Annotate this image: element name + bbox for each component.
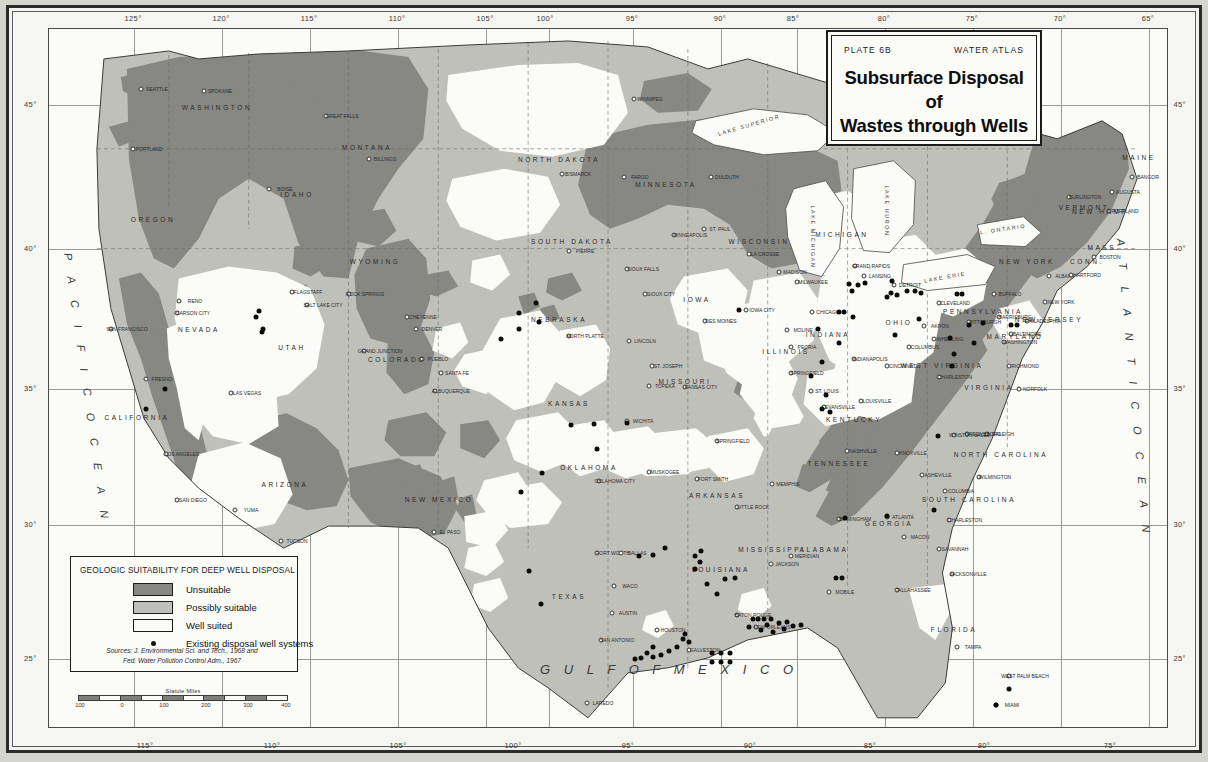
disposal-well-marker [519, 490, 524, 495]
state-label: MONTANA [342, 144, 392, 151]
disposal-well-marker [651, 645, 656, 650]
state-label: ILLINOIS [762, 348, 810, 355]
disposal-well-marker [820, 360, 825, 365]
state-label: OHIO [885, 319, 912, 326]
disposal-well-marker [637, 554, 642, 559]
state-label: GEORGIA [865, 520, 914, 527]
disposal-well-marker [569, 423, 574, 428]
disposal-well-marker [895, 293, 900, 298]
legend-label-possibly-suitable: Possibly suitable [186, 602, 257, 613]
disposal-well-marker [710, 660, 715, 665]
disposal-well-marker [950, 364, 955, 369]
disposal-well-marker [759, 628, 764, 633]
state-label: CONN. [1070, 258, 1104, 265]
state-label: WEST VIRGINIA [901, 362, 984, 369]
state-label: PENNSYLVANIA [943, 308, 1023, 315]
disposal-well-marker [843, 516, 848, 521]
state-label: MAINE [1122, 154, 1156, 161]
disposal-well-marker [828, 410, 833, 415]
legend-swatch-unsuitable [133, 583, 173, 596]
legend-row-well-suited[interactable]: Well suited [71, 616, 297, 634]
disposal-well-marker [762, 617, 767, 622]
legend-row-unsuitable[interactable]: Unsuitable [71, 580, 297, 598]
map-title: Subsurface Disposal of Wastes through We… [838, 66, 1030, 138]
disposal-well-marker [952, 352, 957, 357]
disposal-well-marker [816, 327, 821, 332]
disposal-well-marker [972, 341, 977, 346]
disposal-well-marker [710, 651, 715, 656]
disposal-well-marker [913, 289, 918, 294]
disposal-well-marker [885, 514, 890, 519]
disposal-well-marker [771, 630, 776, 635]
legend-row-possibly-suitable[interactable]: Possibly suitable [71, 598, 297, 616]
state-label: WASHINGTON [182, 104, 252, 111]
state-label: NEW YORK [999, 258, 1055, 265]
state-label: COLORADO [368, 356, 426, 363]
legend-swatch-well-suited [133, 619, 173, 632]
state-label: NEVADA [178, 326, 220, 333]
disposal-well-marker [863, 281, 868, 286]
disposal-well-marker [257, 309, 262, 314]
state-label: FLORIDA [931, 626, 977, 633]
legend-source-line1: Sources: J. Environmental Sci. and Tech.… [71, 646, 293, 656]
state-label: WISCONSIN [729, 238, 790, 245]
disposal-well-marker [809, 374, 814, 379]
disposal-well-marker [756, 617, 761, 622]
disposal-well-marker [960, 292, 965, 297]
disposal-well-marker [517, 327, 522, 332]
state-label: SOUTH CAROLINA [922, 496, 1016, 503]
state-label: MISSOURI [659, 378, 712, 385]
disposal-well-marker [994, 703, 999, 708]
disposal-well-marker [693, 554, 698, 559]
state-label: TENNESSEE [808, 460, 871, 467]
state-label: NORTH CAROLINA [954, 451, 1048, 458]
disposal-well-marker [719, 660, 724, 665]
disposal-well-marker [639, 656, 644, 661]
lake-label-huron: LAKE HURON [884, 185, 890, 236]
legend-swatch-possibly-suitable [133, 601, 173, 614]
state-label: LOUISIANA [692, 566, 750, 573]
state-label: ALABAMA [800, 546, 849, 553]
disposal-well-marker [260, 330, 265, 335]
disposal-well-marker [540, 471, 545, 476]
state-label: MICHIGAN [815, 231, 868, 238]
plate-number: PLATE 6B [844, 45, 892, 55]
disposal-well-marker [699, 549, 704, 554]
state-label: NORTH DAKOTA [518, 156, 600, 163]
map-legend: GEOLOGIC SUITABILITY FOR DEEP WELL DISPO… [70, 556, 298, 672]
disposal-well-marker [651, 655, 656, 660]
disposal-well-marker [667, 649, 672, 654]
disposal-well-marker [728, 651, 733, 656]
disposal-well-marker [737, 308, 742, 313]
disposal-well-marker [981, 321, 986, 326]
legend-heading: GEOLOGIC SUITABILITY FOR DEEP WELL DISPO… [80, 565, 295, 575]
disposal-well-marker [919, 291, 924, 296]
state-label: IDAHO [280, 191, 314, 198]
disposal-well-marker [799, 623, 804, 628]
disposal-well-marker [785, 620, 790, 625]
disposal-well-marker [1007, 687, 1012, 692]
disposal-well-marker [659, 653, 664, 658]
disposal-well-marker [592, 422, 597, 427]
disposal-well-marker [534, 301, 539, 306]
state-label: WYOMING [350, 258, 401, 265]
disposal-well-marker [834, 576, 839, 581]
disposal-well-marker [517, 311, 522, 316]
state-label: NEW JERSEY [1015, 316, 1083, 323]
disposal-well-marker [163, 387, 168, 392]
disposal-well-marker [769, 617, 774, 622]
disposal-well-marker [905, 289, 910, 294]
state-label: MISSISSIPPI [738, 546, 805, 553]
state-label: IOWA [683, 296, 711, 303]
disposal-well-marker [539, 602, 544, 607]
disposal-well-marker [967, 323, 972, 328]
disposal-well-marker [847, 282, 852, 287]
disposal-well-marker [1009, 323, 1014, 328]
disposal-well-marker [687, 640, 692, 645]
disposal-well-marker [527, 569, 532, 574]
disposal-well-marker [675, 645, 680, 650]
disposal-well-marker [663, 546, 668, 551]
state-label: KANSAS [548, 400, 590, 407]
map-title-line2: Wastes through Wells [838, 114, 1030, 138]
map-page: 125° 120° 115° 110° 105° 100° 95° 90° 85… [0, 0, 1208, 762]
